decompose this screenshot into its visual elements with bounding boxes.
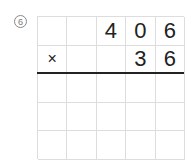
- answer-cell[interactable]: [38, 103, 67, 132]
- problem-number: 6: [14, 15, 27, 28]
- answer-cell[interactable]: [67, 74, 96, 103]
- answer-cell[interactable]: [67, 103, 96, 132]
- answer-cell[interactable]: [97, 103, 126, 132]
- answer-cell[interactable]: [97, 131, 126, 160]
- grid-cell[interactable]: [67, 46, 96, 75]
- answer-cell[interactable]: [38, 74, 67, 103]
- grid-cell[interactable]: 4: [97, 17, 126, 46]
- answer-cell[interactable]: [126, 103, 155, 132]
- grid-cell[interactable]: 6: [156, 46, 185, 75]
- answer-cell[interactable]: [97, 74, 126, 103]
- answer-cell[interactable]: [38, 131, 67, 160]
- answer-cell[interactable]: [156, 74, 185, 103]
- grid-cell[interactable]: 0: [126, 17, 155, 46]
- grid-cell[interactable]: 3: [126, 46, 155, 75]
- answer-rule-line: [37, 72, 184, 74]
- answer-cell[interactable]: [156, 131, 185, 160]
- grid-cell[interactable]: 6: [156, 17, 185, 46]
- answer-cell[interactable]: [67, 131, 96, 160]
- multiplication-grid: 4 0 6 × 3 6: [37, 16, 184, 159]
- grid-cell[interactable]: [38, 17, 67, 46]
- grid-cell[interactable]: [67, 17, 96, 46]
- answer-cell[interactable]: [126, 131, 155, 160]
- grid-cell[interactable]: [97, 46, 126, 75]
- multiply-sign: ×: [38, 46, 67, 75]
- answer-cell[interactable]: [126, 74, 155, 103]
- answer-cell[interactable]: [156, 103, 185, 132]
